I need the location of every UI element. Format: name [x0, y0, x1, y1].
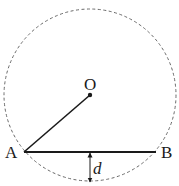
label-A: A	[5, 143, 18, 162]
label-B: B	[161, 143, 172, 162]
label-O: O	[84, 75, 96, 94]
radius-OA	[24, 95, 90, 152]
label-d: d	[93, 159, 102, 178]
circle-chord-diagram: O A B d	[0, 0, 179, 186]
